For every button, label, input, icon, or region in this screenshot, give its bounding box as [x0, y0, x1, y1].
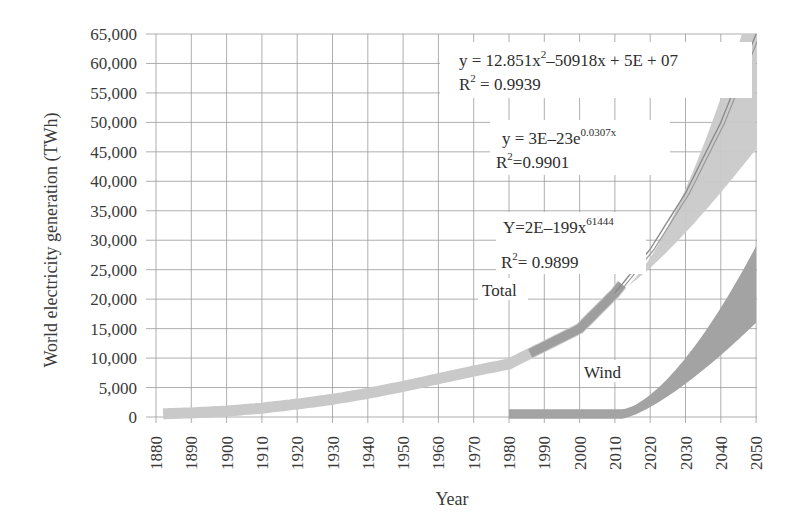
y-tick-label: 20,000 [90, 290, 137, 309]
y-tick-label: 40,000 [90, 172, 137, 191]
y-tick-label: 35,000 [90, 202, 137, 221]
y-tick-label: 60,000 [90, 54, 137, 73]
r2-exponential: R2=0.9901 [496, 150, 569, 172]
x-tick-label: 1970 [465, 436, 484, 470]
total-historical-band [163, 284, 622, 413]
x-axis-ticks: 1880189019001910192019301940195019601970… [147, 436, 766, 470]
y-tick-label: 5,000 [99, 379, 137, 398]
x-tick-label: 2050 [747, 436, 766, 470]
series-label-wind: Wind [584, 363, 622, 382]
x-tick-label: 1880 [147, 436, 166, 470]
y-axis-title: World electricity generation (TWh) [41, 113, 62, 368]
x-tick-label: 2010 [606, 436, 625, 470]
y-tick-label: 0 [129, 408, 138, 427]
x-tick-label: 1910 [253, 436, 272, 470]
x-tick-label: 1940 [359, 436, 378, 470]
equation-polynomial: y = 12.851x2–50918x + 5E + 07 [459, 48, 678, 70]
y-tick-label: 15,000 [90, 320, 137, 339]
x-tick-label: 2020 [641, 436, 660, 470]
x-tick-label: 1920 [288, 436, 307, 470]
y-tick-label: 45,000 [90, 143, 137, 162]
x-tick-label: 1900 [218, 436, 237, 470]
x-tick-label: 2030 [677, 436, 696, 470]
x-tick-label: 1930 [324, 436, 343, 470]
y-tick-label: 30,000 [90, 231, 137, 250]
series-label-total: Total [482, 281, 517, 300]
y-tick-label: 55,000 [90, 84, 137, 103]
x-tick-label: 1960 [429, 436, 448, 470]
y-tick-label: 65,000 [90, 25, 137, 44]
x-tick-label: 1980 [500, 436, 519, 470]
y-tick-label: 10,000 [90, 349, 137, 368]
chart: 05,00010,00015,00020,00025,00030,00035,0… [0, 0, 804, 531]
x-tick-label: 1990 [535, 436, 554, 470]
y-tick-label: 50,000 [90, 113, 137, 132]
x-axis-title: Year [435, 489, 468, 509]
y-tick-label: 25,000 [90, 261, 137, 280]
x-tick-label: 1890 [182, 436, 201, 470]
x-tick-label: 2040 [712, 436, 731, 470]
x-tick-label: 1950 [394, 436, 413, 470]
x-tick-label: 2000 [571, 436, 590, 470]
y-axis-ticks: 05,00010,00015,00020,00025,00030,00035,0… [90, 25, 137, 427]
